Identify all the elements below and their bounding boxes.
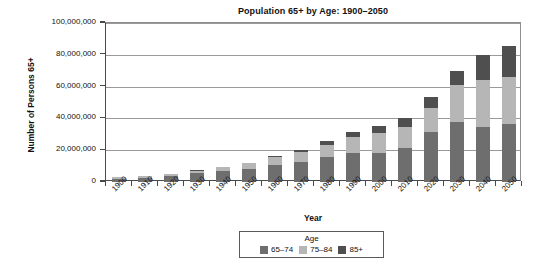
bar-group[interactable] bbox=[372, 126, 386, 182]
bar-segment[interactable] bbox=[450, 122, 464, 182]
bar-group[interactable] bbox=[424, 97, 438, 182]
bar-segment[interactable] bbox=[372, 126, 386, 133]
x-axis-tick-mark bbox=[313, 181, 314, 186]
bar-group[interactable] bbox=[476, 55, 490, 182]
x-axis-tick-mark bbox=[469, 181, 470, 186]
bar-segment[interactable] bbox=[268, 157, 282, 164]
x-axis-tick-mark bbox=[339, 181, 340, 186]
bar-segment[interactable] bbox=[372, 133, 386, 153]
bar-segment[interactable] bbox=[502, 124, 516, 182]
legend-item[interactable]: 65–74 bbox=[260, 245, 293, 254]
legend-title: Age bbox=[240, 234, 383, 244]
legend-label: 75–84 bbox=[310, 245, 332, 254]
y-axis-tick-label: 20,000,000 bbox=[20, 144, 96, 153]
bar-segment[interactable] bbox=[424, 108, 438, 132]
x-axis-tick-mark bbox=[521, 181, 522, 186]
bar-segment[interactable] bbox=[398, 127, 412, 147]
x-axis-tick-mark bbox=[391, 181, 392, 186]
x-axis-tick-mark bbox=[443, 181, 444, 186]
bar-group[interactable] bbox=[502, 46, 516, 182]
x-axis-tick-mark bbox=[417, 181, 418, 186]
y-axis-tick-label: 100,000,000 bbox=[20, 17, 96, 26]
legend-swatch-icon bbox=[338, 246, 346, 254]
x-axis-tick-mark bbox=[495, 181, 496, 186]
bar-segment[interactable] bbox=[502, 77, 516, 125]
bar-segment[interactable] bbox=[294, 152, 308, 162]
x-axis-tick-mark bbox=[365, 181, 366, 186]
y-axis-tick-label: 60,000,000 bbox=[20, 81, 96, 90]
legend-item[interactable]: 85+ bbox=[338, 245, 363, 254]
x-axis-tick-mark bbox=[235, 181, 236, 186]
bar-group[interactable] bbox=[450, 71, 464, 182]
x-axis-tick-mark bbox=[183, 181, 184, 186]
legend-item[interactable]: 75–84 bbox=[299, 245, 332, 254]
x-axis-tick-mark bbox=[261, 181, 262, 186]
bar-segment[interactable] bbox=[502, 46, 516, 76]
legend-swatch-icon bbox=[260, 246, 268, 254]
x-axis-tick-mark bbox=[131, 181, 132, 186]
bar-series-container bbox=[106, 23, 522, 182]
y-axis-tick-label: 40,000,000 bbox=[20, 112, 96, 121]
bar-segment[interactable] bbox=[398, 118, 412, 127]
legend-items: 65–7475–8485+ bbox=[240, 245, 383, 254]
bar-segment[interactable] bbox=[346, 137, 360, 153]
x-axis-tick-mark bbox=[105, 181, 106, 186]
bar-segment[interactable] bbox=[320, 145, 334, 157]
chart-container: Population 65+ by Age: 1900–2050 Number … bbox=[0, 0, 538, 279]
x-axis-tick-mark bbox=[157, 181, 158, 186]
legend-label: 65–74 bbox=[271, 245, 293, 254]
x-axis-tick-mark bbox=[287, 181, 288, 186]
y-axis-tick-label: 0 bbox=[20, 176, 96, 185]
chart-title: Population 65+ by Age: 1900–2050 bbox=[105, 6, 521, 16]
bar-segment[interactable] bbox=[450, 85, 464, 123]
bar-group[interactable] bbox=[398, 118, 412, 182]
legend: Age 65–7475–8485+ bbox=[239, 231, 384, 258]
bar-segment[interactable] bbox=[424, 97, 438, 107]
bar-segment[interactable] bbox=[450, 71, 464, 85]
legend-label: 85+ bbox=[349, 245, 363, 254]
x-axis-tick-mark bbox=[209, 181, 210, 186]
y-axis-tick-label: 80,000,000 bbox=[20, 49, 96, 58]
bar-segment[interactable] bbox=[476, 55, 490, 80]
plot-area bbox=[105, 22, 521, 181]
bar-segment[interactable] bbox=[476, 127, 490, 182]
legend-swatch-icon bbox=[299, 246, 307, 254]
bar-segment[interactable] bbox=[476, 80, 490, 128]
x-axis-title: Year bbox=[105, 213, 521, 223]
